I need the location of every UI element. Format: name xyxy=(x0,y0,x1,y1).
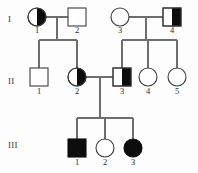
symbol-circle-female xyxy=(168,68,186,86)
individual-ii-4[interactable]: 4 xyxy=(139,68,157,96)
individual-i-1[interactable]: 1 xyxy=(28,8,46,35)
symbol-circle-female xyxy=(96,139,114,157)
individual-ii-1[interactable]: 1 xyxy=(30,68,48,96)
pedigree-diagram: 123412345123 IIIIII xyxy=(0,0,198,173)
half-filled-region xyxy=(37,8,46,26)
individual-ii-2[interactable]: 2 xyxy=(68,68,86,96)
individual-number-label: 3 xyxy=(118,25,122,35)
half-filled-region xyxy=(172,8,181,26)
symbol-circle-female xyxy=(124,139,142,157)
individual-number-label: 1 xyxy=(75,157,79,167)
individual-iii-3[interactable]: 3 xyxy=(124,139,142,167)
individual-i-2[interactable]: 2 xyxy=(68,8,86,35)
generation-label-i: I xyxy=(8,14,11,24)
individual-symbols: 123412345123 xyxy=(28,8,186,167)
half-filled-region xyxy=(77,68,86,86)
sibship-gen2-left xyxy=(39,40,77,68)
sibship-gen3 xyxy=(77,118,133,139)
symbol-square-male xyxy=(68,139,86,157)
pedigree-chart: 123412345123 IIIIII xyxy=(0,0,198,173)
sibship-gen2-right xyxy=(122,40,177,68)
individual-i-4[interactable]: 4 xyxy=(163,8,181,35)
individual-iii-2[interactable]: 2 xyxy=(96,139,114,167)
individual-ii-5[interactable]: 5 xyxy=(168,68,186,96)
symbol-square-male xyxy=(68,8,86,26)
generation-label-iii: III xyxy=(8,140,18,150)
individual-number-label: 1 xyxy=(37,86,41,96)
symbol-square-male xyxy=(30,68,48,86)
individual-number-label: 3 xyxy=(131,157,135,167)
mating-II2-II3 xyxy=(86,77,113,118)
individual-i-3[interactable]: 3 xyxy=(111,8,129,35)
individual-number-label: 5 xyxy=(175,86,179,96)
individual-number-label: 1 xyxy=(35,25,39,35)
half-filled-region xyxy=(122,68,131,86)
individual-number-label: 2 xyxy=(103,157,107,167)
generation-label-ii: II xyxy=(8,76,15,86)
symbol-circle-female xyxy=(139,68,157,86)
individual-iii-1[interactable]: 1 xyxy=(68,139,86,167)
individual-number-label: 4 xyxy=(146,86,151,96)
individual-number-label: 2 xyxy=(75,25,79,35)
symbol-circle-female xyxy=(111,8,129,26)
mating-I1-I2 xyxy=(46,17,68,40)
mating-I3-I4 xyxy=(129,17,163,40)
generation-labels: IIIIII xyxy=(8,14,18,150)
individual-number-label: 3 xyxy=(120,86,124,96)
individual-number-label: 2 xyxy=(75,86,79,96)
individual-ii-3[interactable]: 3 xyxy=(113,68,131,96)
